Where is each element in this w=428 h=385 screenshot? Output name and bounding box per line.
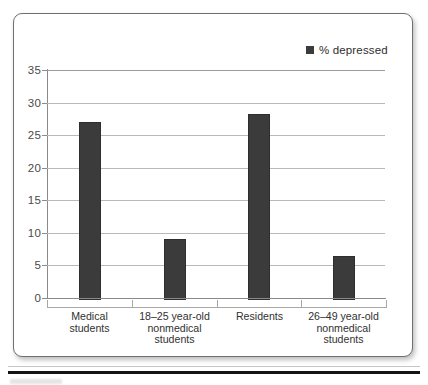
y-tick-label-25: 25	[1, 129, 41, 141]
x-label-26-49-nonmedical-students: 26–49 year-old nonmedical students	[301, 311, 386, 346]
x-tick-0	[47, 300, 48, 308]
x-label-line: students	[301, 334, 386, 346]
x-tick-4	[386, 300, 387, 308]
y-tick-label-35: 35	[1, 64, 41, 76]
x-tick-2	[217, 300, 218, 308]
x-label-residents: Residents	[217, 311, 302, 323]
y-tick-label-20: 20	[1, 162, 41, 174]
y-tick-label-30: 30	[1, 97, 41, 109]
gridline-35	[47, 70, 385, 71]
bar-26-49-nonmedical-students[interactable]	[333, 256, 355, 300]
legend-label-depressed: % depressed	[319, 44, 388, 56]
x-label-medical-students: Medical students	[47, 311, 132, 334]
x-label-line: students	[47, 323, 132, 335]
y-tick-label-15: 15	[1, 194, 41, 206]
x-label-line: Medical	[47, 311, 132, 323]
x-label-line: 26–49 year-old	[301, 311, 386, 323]
bar-18-25-nonmedical-students[interactable]	[164, 239, 186, 300]
x-label-18-25-nonmedical-students: 18–25 year-old nonmedical students	[132, 311, 217, 346]
caption-thin-rule	[8, 366, 420, 367]
y-tick-label-5: 5	[1, 259, 41, 271]
x-tick-3	[301, 300, 302, 308]
gridline-30	[47, 103, 385, 104]
x-label-line: 18–25 year-old	[132, 311, 217, 323]
bar-medical-students[interactable]	[79, 122, 101, 300]
y-tick-label-0: 0	[1, 292, 41, 304]
x-label-line: students	[132, 334, 217, 346]
chart-legend: % depressed	[306, 44, 388, 56]
caption-text-fragment	[10, 379, 62, 384]
y-axis: 0 5 10 15 20 25 30 35	[0, 70, 41, 298]
x-tick-1	[132, 300, 133, 308]
plot-area	[47, 70, 385, 298]
bar-residents[interactable]	[248, 114, 270, 300]
bar-chart: % depressed 0 5 10 15 20 25 30 35	[0, 0, 428, 385]
x-label-line: Residents	[217, 311, 302, 323]
x-axis-line	[47, 298, 386, 299]
y-tick-label-10: 10	[1, 227, 41, 239]
caption-thick-rule	[8, 371, 420, 374]
filled-square-icon	[306, 46, 314, 54]
